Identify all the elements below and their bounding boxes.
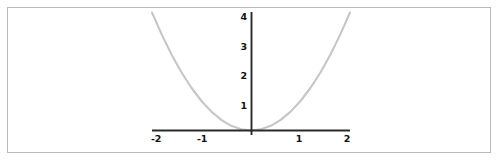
y-tick-label-4: 4 [232, 12, 247, 22]
y-tick-label-2: 2 [232, 71, 247, 81]
x-tick-label-pos2: 2 [344, 134, 350, 144]
x-tick-label-pos1: 1 [296, 134, 302, 144]
figure-root: -2 -1 1 2 4 3 2 1 [0, 0, 498, 161]
y-tick-label-3: 3 [232, 42, 247, 52]
x-tick-label-neg1: -1 [197, 134, 207, 144]
plot-canvas [0, 0, 498, 161]
y-tick-label-1: 1 [232, 101, 247, 111]
x-tick-label-neg2: -2 [151, 134, 161, 144]
